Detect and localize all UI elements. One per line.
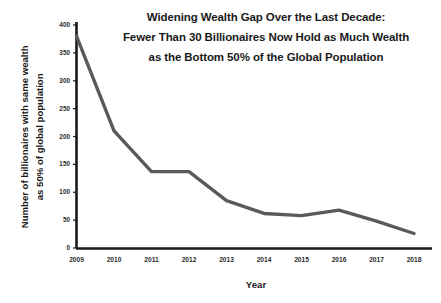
x-tick-label: 2013 xyxy=(207,256,247,263)
y-tick-label: 200 xyxy=(44,133,70,140)
x-tick-label: 2018 xyxy=(394,256,434,263)
x-tick-label: 2009 xyxy=(57,256,97,263)
y-tick-label: 150 xyxy=(44,160,70,167)
x-tick-label: 2014 xyxy=(244,256,284,263)
y-tick-label: 400 xyxy=(44,21,70,28)
x-tick-label: 2016 xyxy=(319,256,359,263)
x-tick-label: 2011 xyxy=(132,256,172,263)
y-tick-label: 250 xyxy=(44,105,70,112)
y-tick-label: 50 xyxy=(44,216,70,223)
data-series-line xyxy=(77,36,415,233)
x-tick-label: 2012 xyxy=(169,256,209,263)
x-tick-label: 2015 xyxy=(282,256,322,263)
x-tick-label: 2010 xyxy=(94,256,134,263)
chart-figure: Widening Wealth Gap Over the Last Decade… xyxy=(0,0,441,303)
y-tick-label: 100 xyxy=(44,188,70,195)
y-tick-label: 0 xyxy=(44,244,70,251)
y-tick-label: 350 xyxy=(44,49,70,56)
axes xyxy=(76,22,432,249)
y-tick-label: 300 xyxy=(44,77,70,84)
x-tick-label: 2017 xyxy=(357,256,397,263)
